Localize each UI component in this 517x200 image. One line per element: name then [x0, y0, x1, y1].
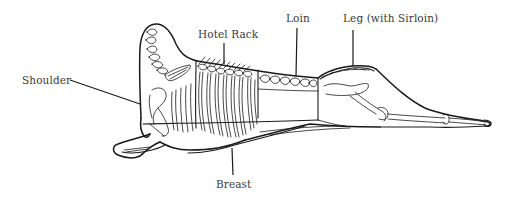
shoulder-leader-line: [70, 80, 140, 104]
shoulder-label: Shoulder: [22, 75, 71, 86]
foreleg-bones: [149, 88, 168, 136]
breast-label: Breast: [216, 179, 251, 190]
loin-label: Loin: [286, 13, 310, 24]
breast-boundary: [143, 120, 318, 124]
ribs: [172, 72, 257, 137]
flank-lines: [260, 126, 350, 135]
loin-leader-line: [296, 28, 297, 76]
leg-with-sirloin-label: Leg (with Sirloin): [343, 13, 438, 24]
leader-lines: [70, 28, 353, 175]
lamb-cuts-diagram: Shoulder Hotel Rack Loin Leg (with Sirlo…: [0, 0, 517, 200]
breast-leader-line: [232, 148, 233, 175]
carcass-illustration: [0, 0, 517, 200]
hotel-rack-label: Hotel Rack: [198, 29, 258, 40]
